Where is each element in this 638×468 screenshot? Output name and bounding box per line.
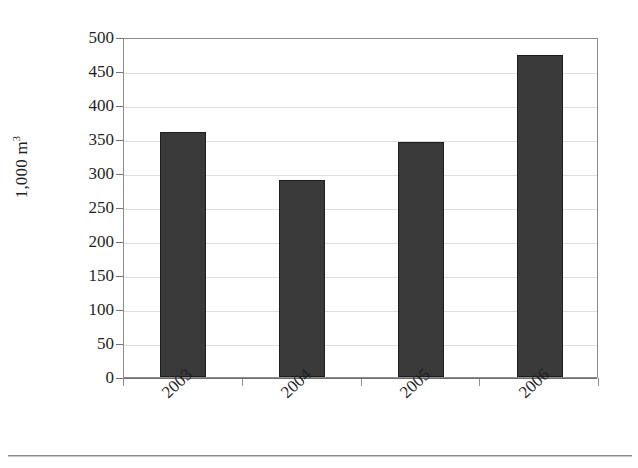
y-axis-title-superscript: 3 [11, 136, 22, 141]
y-tick-mark-100 [116, 310, 123, 311]
plot-area [123, 38, 598, 378]
y-tick-label-350: 350 [58, 131, 114, 148]
bar-2006[interactable] [517, 55, 563, 377]
x-tick-mark-0 [123, 378, 124, 386]
y-tick-mark-300 [116, 174, 123, 175]
figure-container: 1,000 m3 050100150200250300350400450500 … [0, 0, 638, 468]
y-tick-label-500: 500 [58, 29, 114, 46]
y-tick-mark-250 [116, 208, 123, 209]
y-tick-label-50: 50 [58, 335, 114, 352]
y-tick-mark-0 [116, 378, 123, 379]
x-tick-mark-1 [242, 378, 243, 386]
y-tick-mark-450 [116, 72, 123, 73]
y-tick-label-100: 100 [58, 301, 114, 318]
y-axis-title-text: 1,000 m [12, 141, 31, 198]
bar-2005[interactable] [398, 142, 444, 377]
y-tick-mark-200 [116, 242, 123, 243]
y-tick-mark-150 [116, 276, 123, 277]
y-tick-mark-50 [116, 344, 123, 345]
y-tick-label-0: 0 [58, 369, 114, 386]
bar-series [124, 39, 597, 377]
y-tick-label-150: 150 [58, 267, 114, 284]
bar-2004[interactable] [279, 180, 325, 377]
y-axis-title: 1,000 m3 [12, 97, 46, 237]
y-tick-label-450: 450 [58, 63, 114, 80]
y-tick-mark-350 [116, 140, 123, 141]
y-tick-label-300: 300 [58, 165, 114, 182]
y-tick-mark-500 [116, 38, 123, 39]
y-axis-tick-labels: 050100150200250300350400450500 [58, 0, 114, 468]
y-tick-mark-400 [116, 106, 123, 107]
x-tick-mark-3 [479, 378, 480, 386]
bar-2003[interactable] [160, 132, 206, 377]
x-tick-mark-2 [361, 378, 362, 386]
y-tick-label-400: 400 [58, 97, 114, 114]
y-tick-label-250: 250 [58, 199, 114, 216]
y-tick-label-200: 200 [58, 233, 114, 250]
x-tick-mark-4 [598, 378, 599, 386]
bottom-rule [8, 455, 632, 457]
